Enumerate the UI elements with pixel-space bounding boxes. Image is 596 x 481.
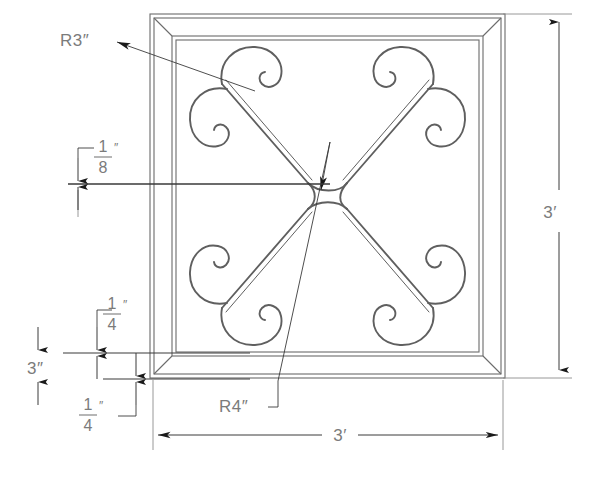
fraction-inch-mark: ″ [123,298,128,312]
frame-mitre-top-left [154,18,172,36]
fraction-numerator: 1 [99,138,108,155]
fraction-denominator: 8 [99,159,108,176]
arm-bar-lower-left-b [226,212,312,312]
fraction-inch-mark: ″ [114,141,119,155]
arm-bar-upper-right-b [343,80,429,180]
fraction-numerator: 1 [108,295,117,312]
fraction-bar-thickness: 1 8 ″ [94,138,119,176]
dim-label-radius-scroll: R3″ [60,31,89,50]
arm-bar-lower-right-b [343,212,429,312]
scroll-curl-top-left-upper [221,47,281,87]
leader-line-r3 [117,42,255,91]
scroll-arm-lower-left [190,209,312,345]
scroll-curl-left-upper [190,88,229,146]
dimension-rail-offset-bottom: 1 4 ″ [79,353,250,434]
scroll-curl-top-right-upper [374,47,434,87]
fraction-inch-mark: ″ [99,399,104,413]
fraction-numerator: 1 [84,396,93,413]
scrollwork-ornament [190,47,465,345]
scroll-curl-bottom-left-lower [221,305,281,345]
scroll-curl-right-lower [426,246,465,304]
arm-bar-lower-left-a [222,209,308,308]
dimension-overall-height: 3′ [503,14,572,378]
dim-label-overall-width: 3′ [333,426,347,445]
frame-mitre-bottom-left [154,356,172,374]
frame-outer-edge [150,14,505,378]
scroll-arm-lower-right [343,209,465,345]
arm-bar-upper-left-b [226,80,312,180]
dimension-overall-width: 3′ [153,380,503,450]
leader-radius-center: R4″ [219,142,330,416]
frame-outer-edge-inner-line [154,18,501,374]
fraction-denominator: 4 [84,417,93,434]
dim-label-overall-height: 3′ [543,203,557,222]
dim-label-radius-center: R4″ [219,397,248,416]
arm-bar-upper-right-a [347,84,433,183]
dimension-frame-width: 3″ [27,327,43,405]
frame-inner-edge [176,40,479,352]
technical-drawing-canvas: 3′ 3′ R3″ R4″ 1 8 ″ [0,0,596,481]
scroll-curl-left-lower [190,246,229,304]
scroll-curl-right-upper [426,88,465,146]
arm-bar-lower-right-a [347,209,433,308]
frame-mitre-bottom-right [483,356,501,374]
frame-inner-edge-outer-line [172,36,483,356]
arm-bar-upper-left-a [222,84,308,183]
dim-label-frame-width: 3″ [27,359,43,378]
fraction-denominator: 4 [108,316,117,333]
scroll-arm-upper-left [190,47,312,183]
center-hub-astroid [308,183,347,209]
scroll-curl-bottom-right-lower [374,305,434,345]
panel-frame-assembly [150,14,505,378]
cad-drawing-svg: 3′ 3′ R3″ R4″ 1 8 ″ [0,0,596,481]
frame-mitre-top-right [483,18,501,36]
fraction-rail-offset-top: 1 4 ″ [103,295,128,333]
leader-line-r4-arrow [321,142,330,190]
fraction-rail-offset-bottom: 1 4 ″ [79,396,104,434]
scroll-arm-upper-right [343,47,465,183]
dimension-bar-thickness: 1 8 ″ [68,138,330,217]
